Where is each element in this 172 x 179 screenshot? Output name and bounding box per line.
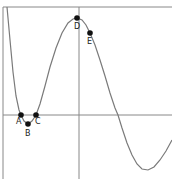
- point-d-marker: [74, 15, 80, 21]
- point-b-marker: [25, 121, 31, 127]
- function-plot: ABCDE: [0, 0, 172, 179]
- point-b-label: B: [25, 129, 31, 138]
- labeled-points: ABCDE: [16, 15, 93, 138]
- point-e-label: E: [87, 37, 92, 46]
- point-c-label: C: [35, 117, 41, 126]
- point-a-label: A: [16, 117, 22, 126]
- point-e-marker: [87, 30, 93, 36]
- point-d-label: D: [74, 22, 80, 31]
